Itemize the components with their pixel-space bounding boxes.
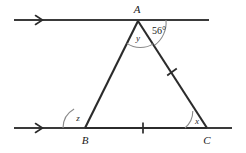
angle-label-56-degrees: 56°: [152, 25, 166, 36]
geometry-figure: A B C y x z 56°: [0, 0, 246, 153]
segment-AC: [138, 21, 207, 128]
angle-arc-x: [185, 111, 193, 128]
vertex-label-B: B: [82, 134, 89, 146]
angle-arc-z: [63, 109, 74, 128]
angle-label-z: z: [75, 113, 80, 123]
angle-arc-y: [127, 43, 154, 47]
vertex-label-A: A: [133, 3, 141, 15]
segment-AB: [85, 21, 138, 128]
angle-label-y: y: [135, 33, 140, 43]
angle-label-x: x: [194, 116, 199, 126]
geometry-diagram: A B C y x z 56°: [0, 0, 246, 153]
vertex-label-C: C: [203, 134, 211, 146]
